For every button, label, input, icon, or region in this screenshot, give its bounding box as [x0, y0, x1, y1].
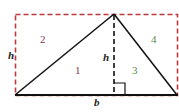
label-region-3: 3: [132, 64, 138, 76]
label-h-left: h: [8, 49, 14, 61]
label-region-2: 2: [40, 33, 46, 45]
right-angle-marker: [114, 83, 125, 95]
dashed-rectangle: [16, 15, 178, 96]
label-region-1: 1: [75, 64, 81, 76]
triangle-left-side: [15, 14, 114, 95]
label-h-middle: h: [103, 51, 109, 63]
area-diagram: [0, 0, 179, 112]
label-b: b: [94, 96, 100, 108]
label-region-4: 4: [151, 33, 157, 45]
